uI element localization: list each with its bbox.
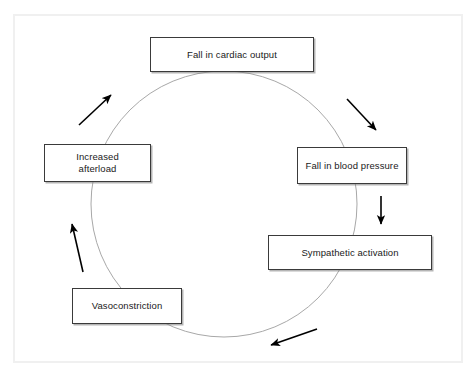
node-fall-in-blood-pressure: Fall in blood pressure [297, 147, 407, 184]
node-label: Fall in cardiac output [187, 49, 277, 61]
node-fall-in-cardiac-output: Fall in cardiac output [150, 37, 314, 72]
arrow-sympathetic-to-vasoconstriction [271, 329, 317, 345]
node-label: Increased afterload [76, 151, 119, 175]
arrow-cardiac-output-to-blood-pressure [347, 99, 376, 130]
arrow-afterload-to-cardiac-output [79, 95, 111, 125]
node-sympathetic-activation: Sympathetic activation [268, 235, 432, 270]
arrow-vasoconstriction-to-afterload [72, 224, 83, 272]
node-label: Sympathetic activation [301, 247, 398, 259]
diagram-canvas: Fall in cardiac output Fall in blood pre… [0, 0, 476, 378]
node-increased-afterload: Increased afterload [44, 144, 151, 182]
node-label: Fall in blood pressure [305, 160, 398, 172]
node-vasoconstriction: Vasoconstriction [72, 288, 182, 324]
node-label: Vasoconstriction [92, 300, 163, 312]
